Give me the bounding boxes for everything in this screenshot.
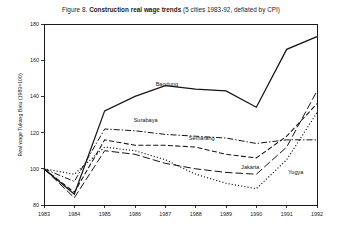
y-tick-label: 180 [30,21,39,27]
series-label-bandung: Bandung [156,81,178,87]
figure-panel: Figure 8. Construction real wage trends … [0,0,342,237]
x-tick-label: 1992 [311,211,323,217]
y-axis-ticks: 80100120140160180 [30,21,44,208]
series-labels: BandungSurabayaSemarangJakartaYogya [134,81,305,176]
x-axis-ticks: 1983198419851986198719881989199019911992 [38,205,323,217]
y-tick-label: 100 [30,166,39,172]
figure-title-suffix: (5 cities 1983-92, deflated by CPI) [181,6,280,13]
x-tick-label: 1989 [220,211,232,217]
axis-frame [44,24,317,205]
series-label-yogya: Yogya [288,169,304,175]
series-line-semarang [44,104,317,193]
x-tick-label: 1991 [281,211,293,217]
x-tick-label: 1986 [129,211,141,217]
x-tick-label: 1985 [99,211,111,217]
y-tick-label: 120 [30,130,39,136]
line-chart: 80100120140160180 1983198419851986198719… [0,0,342,237]
x-tick-label: 1990 [250,211,262,217]
figure-title-prefix: Figure 8. [62,6,89,13]
figure-title-main: Construction real wage trends [89,6,181,13]
series-label-semarang: Semarang [189,135,215,141]
x-tick-label: 1987 [159,211,171,217]
y-tick-label: 140 [30,93,39,99]
x-tick-label: 1983 [38,211,50,217]
y-axis-title: Real wage Tukang Batu (1983=100) [17,73,23,156]
series-lines [44,37,317,198]
x-tick-label: 1988 [190,211,202,217]
y-tick-label: 160 [30,57,39,63]
x-tick-label: 1984 [68,211,80,217]
series-label-jakarta: Jakarta [241,164,260,170]
series-label-surabaya: Surabaya [134,117,159,123]
figure-title: Figure 8. Construction real wage trends … [0,6,342,14]
series-line-yogya [44,113,317,189]
y-tick-label: 80 [33,202,39,208]
